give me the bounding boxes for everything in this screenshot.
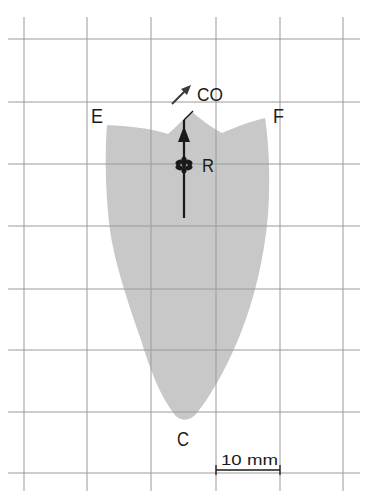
scale-bar-label: 10 mm [221, 452, 278, 468]
label-r: R [202, 155, 214, 176]
label-co: CO [197, 84, 223, 105]
label-c: C [177, 428, 189, 450]
shaded-region [106, 112, 269, 420]
label-e: E [91, 105, 103, 127]
field-diagram: CO R E F C 10 mm [0, 0, 369, 495]
co-arrow-icon [172, 85, 191, 104]
label-f: F [273, 105, 284, 127]
